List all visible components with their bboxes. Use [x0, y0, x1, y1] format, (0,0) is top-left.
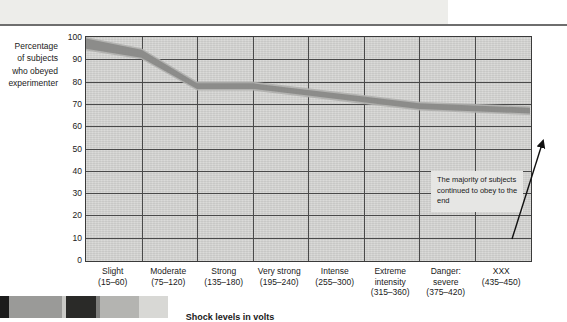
x-axis-tick: Intense(255–300) [307, 266, 363, 287]
plot-area: The majority of subjects continued to ob… [85, 36, 532, 262]
y-axis-tick: 0 [60, 255, 82, 265]
y-axis-tick: 20 [60, 210, 82, 220]
y-axis-tick: 70 [60, 99, 82, 109]
annotation-arrow-icon [506, 125, 551, 245]
x-axis-tick-name: Extreme intensity [363, 266, 419, 287]
y-axis-label-line-3: who obeyed [2, 65, 58, 77]
x-axis-tick: XXX(435–450) [474, 266, 530, 287]
x-axis-tick-name: XXX [474, 266, 530, 277]
x-axis-tick-name: Intense [307, 266, 363, 277]
y-axis-tick-list: 1009080706050403020100 [58, 36, 82, 262]
y-axis-tick: 60 [60, 121, 82, 131]
top-decorative-band [0, 0, 448, 24]
y-axis-tick: 90 [60, 54, 82, 64]
x-axis-tick: Slight(15–60) [85, 266, 141, 287]
y-axis-label-line-1: Percentage [2, 40, 58, 52]
x-axis-tick: Moderate(75–120) [141, 266, 197, 287]
page-photo-fragment [0, 296, 168, 318]
x-axis-tick-name: Very strong [252, 266, 308, 277]
x-axis-tick-range: (135–180) [196, 277, 252, 288]
band-dark-core [86, 39, 530, 114]
x-axis-tick-range: (75–120) [141, 277, 197, 288]
x-axis-tick-name: Moderate [141, 266, 197, 277]
x-axis-tick-name: Slight [85, 266, 141, 277]
x-axis-tick-name: Strong [196, 266, 252, 277]
y-axis-tick: 100 [60, 32, 82, 42]
y-axis-tick: 50 [60, 144, 82, 154]
x-axis-tick: Strong(135–180) [196, 266, 252, 287]
y-axis-tick: 30 [60, 188, 82, 198]
obedience-band [86, 37, 530, 260]
x-axis-tick-name: Danger: severe [418, 266, 474, 287]
x-axis-tick-range: (435–450) [474, 277, 530, 288]
x-axis-tick-range: (315–360) [363, 287, 419, 298]
x-axis-tick-range: (15–60) [85, 277, 141, 288]
obedience-chart-figure: Percentage of subjects who obeyed experi… [0, 26, 567, 318]
x-axis-tick-range: (375–420) [418, 287, 474, 298]
x-axis-tick: Danger: severe(375–420) [418, 266, 474, 298]
y-axis-tick: 40 [60, 166, 82, 176]
y-axis-tick: 80 [60, 77, 82, 87]
y-axis-tick: 10 [60, 233, 82, 243]
y-axis-label: Percentage of subjects who obeyed experi… [2, 40, 58, 90]
x-axis-tick: Very strong(195–240) [252, 266, 308, 287]
x-axis-tick: Extreme intensity(315–360) [363, 266, 419, 298]
y-axis-label-line-2: of subjects [2, 52, 58, 64]
band-light-edge [86, 37, 530, 115]
x-axis-tick-range: (195–240) [252, 277, 308, 288]
y-axis-label-line-4: experimenter [2, 77, 58, 89]
x-axis-tick-range: (255–300) [307, 277, 363, 288]
